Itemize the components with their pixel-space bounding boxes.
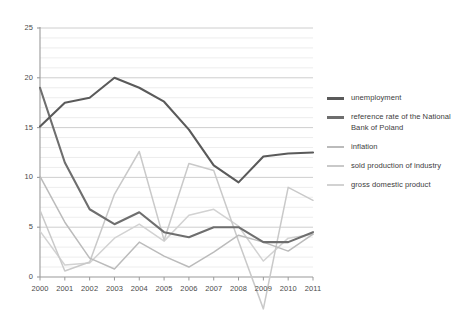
y-axis-tick-label: 0 <box>15 272 33 281</box>
legend-swatch-icon <box>327 165 344 168</box>
x-axis-tick-label: 2011 <box>300 284 326 293</box>
line-chart: 0510152025 20002001200220032004200520062… <box>0 0 465 312</box>
x-axis-tick-label: 2004 <box>126 284 152 293</box>
chart-legend: unemploymentreference rate of the Nation… <box>327 93 463 199</box>
x-axis-tick-label: 2010 <box>275 284 301 293</box>
x-axis-tick-label: 2007 <box>201 284 227 293</box>
y-axis-tick-label: 10 <box>15 172 33 181</box>
x-axis-tick-label: 2003 <box>101 284 127 293</box>
x-axis-tick-label: 2000 <box>27 284 53 293</box>
y-axis-tick-label: 5 <box>15 222 33 231</box>
x-axis-tick-label: 2001 <box>52 284 78 293</box>
data-series-group <box>40 78 313 309</box>
legend-item-label: inflation <box>351 142 378 153</box>
series-line-reference-rate-of-the-national-bank-of-poland <box>40 88 313 242</box>
legend-item-label: unemployment <box>351 93 401 104</box>
x-axis-tick-label: 2005 <box>151 284 177 293</box>
gridlines-minor <box>40 38 313 267</box>
series-line-unemployment <box>40 78 313 183</box>
x-axis-tick-label: 2009 <box>250 284 276 293</box>
legend-item-label: reference rate of the National Bank of P… <box>351 112 459 133</box>
legend-swatch-icon <box>327 116 344 119</box>
legend-item-label: sold production of industry <box>351 161 441 172</box>
legend-swatch-icon <box>327 97 344 100</box>
y-axis-tick-label: 25 <box>15 23 33 32</box>
legend-item[interactable]: gross domestic product <box>327 180 463 191</box>
series-line-inflation <box>40 176 313 269</box>
legend-item-label: gross domestic product <box>351 180 431 191</box>
y-axis-tick-label: 15 <box>15 123 33 132</box>
legend-item[interactable]: sold production of industry <box>327 161 463 172</box>
legend-item[interactable]: unemployment <box>327 93 463 104</box>
x-axis-tick-label: 2002 <box>77 284 103 293</box>
legend-item[interactable]: reference rate of the National Bank of P… <box>327 112 463 133</box>
x-axis-tick-label: 2008 <box>226 284 252 293</box>
legend-item[interactable]: inflation <box>327 142 463 153</box>
legend-swatch-icon <box>327 146 344 149</box>
y-axis-tick-label: 20 <box>15 73 33 82</box>
legend-swatch-icon <box>327 184 344 187</box>
x-axis-tick-label: 2006 <box>176 284 202 293</box>
